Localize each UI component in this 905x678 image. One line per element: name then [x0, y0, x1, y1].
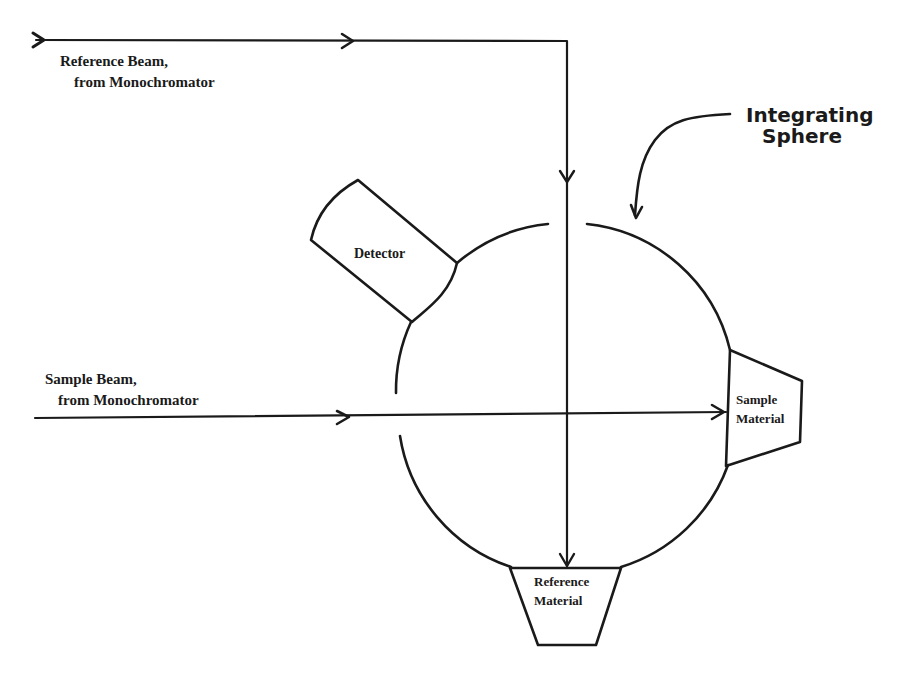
sample-beam-label-line1: Sample Beam,	[45, 371, 137, 387]
integrating-sphere-label-line2: Sphere	[762, 124, 842, 148]
reference-material: Reference Material	[510, 568, 621, 645]
reference-material-label-line1: Reference	[534, 574, 590, 589]
reference-material-label-line2: Material	[534, 593, 583, 608]
sample-material-holder	[726, 350, 802, 466]
reference-beam	[33, 33, 574, 566]
sample-beam-label-line2: from Monochromator	[58, 392, 199, 408]
sample-beam-mid-arrow-icon	[337, 411, 349, 424]
reference-beam-label-line1: Reference Beam,	[60, 53, 168, 69]
integrating-sphere	[396, 224, 730, 567]
diagram-canvas: Reference Beam, from Monochromator Sampl…	[0, 0, 905, 678]
reference-beam-label-line2: from Monochromator	[74, 74, 215, 90]
reference-beam-path	[36, 40, 567, 566]
sphere-arc-bottom-right	[621, 465, 728, 567]
sphere-callout-curve	[635, 114, 730, 215]
sample-material-label-line2: Material	[736, 411, 785, 426]
sample-material-label-line1: Sample	[736, 392, 777, 407]
detector-label: Detector	[354, 246, 405, 261]
sphere-arc-top-right	[587, 224, 730, 350]
sphere-callout	[631, 114, 730, 218]
sphere-arc-left-upper	[396, 322, 411, 393]
sample-material: Sample Material	[726, 350, 802, 466]
sphere-arc-top-left	[457, 224, 548, 263]
detector: Detector	[311, 180, 457, 322]
sample-beam-path	[35, 412, 726, 418]
integrating-sphere-diagram: Reference Beam, from Monochromator Sampl…	[0, 0, 905, 678]
sphere-arc-left-lower	[400, 436, 511, 567]
